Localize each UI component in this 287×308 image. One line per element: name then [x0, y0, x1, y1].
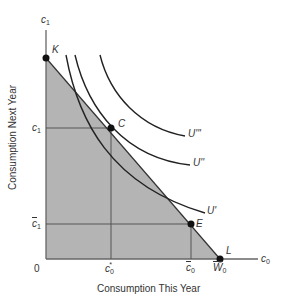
x-axis-title: Consumption This Year	[97, 283, 200, 294]
y-axis-symbol: c1	[41, 14, 50, 26]
y-axis-title: Consumption Next Year	[7, 85, 18, 190]
point-e	[188, 221, 195, 228]
point-c	[108, 125, 115, 132]
x-tick-c0-bar: c0	[186, 262, 195, 274]
diagram-canvas	[0, 0, 287, 308]
point-k	[43, 55, 50, 62]
x-axis-symbol: c0	[261, 253, 270, 265]
curve-u2-label: U''	[193, 157, 204, 168]
y-tick-c1: c1	[32, 122, 41, 134]
point-l-label: L	[226, 245, 232, 256]
x-tick-w0-bar: W0	[213, 262, 226, 274]
x-tick-c0-star: c0*	[105, 262, 117, 275]
consumption-diagram: c1 c0 0 Consumption Next Year Consumptio…	[0, 0, 287, 308]
curve-u1-label: U'	[207, 205, 216, 216]
point-e-label: E	[196, 218, 203, 229]
point-k-label: K	[52, 44, 59, 55]
curve-u3-label: U'''	[188, 128, 201, 139]
origin-label: 0	[34, 263, 40, 274]
point-c-label: C	[118, 118, 125, 129]
indifference-curve-u3	[100, 55, 185, 136]
y-tick-c1-bar: c1	[32, 218, 41, 230]
